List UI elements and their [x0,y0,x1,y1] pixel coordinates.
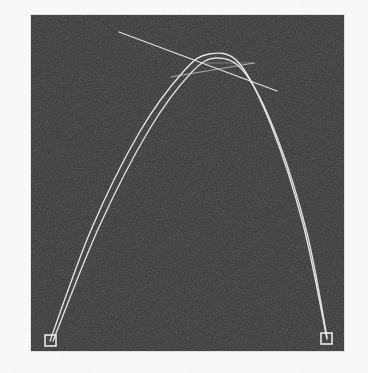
anchor-handle-group [45,333,332,346]
bezier-curve-canvas[interactable] [31,15,344,351]
page-root: Dark graphics canvas showing two overlap… [0,0,368,373]
tangent-line-path[interactable] [119,32,277,91]
curve-vector-layer [31,15,344,351]
curve-outer-path[interactable] [50,53,327,341]
curve-group [50,32,327,341]
curve-inner-path[interactable] [53,58,327,341]
